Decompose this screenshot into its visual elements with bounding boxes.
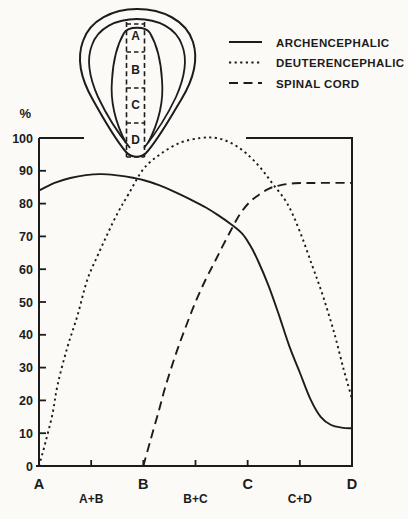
y-tick-label: 60 bbox=[19, 263, 33, 277]
y-tick-label: 90 bbox=[19, 164, 33, 178]
chart-canvas: % 1009080706050403020100ABCDA+BB+CC+DARC… bbox=[0, 0, 408, 519]
x-axis-sublabel-c-d: C+D bbox=[288, 492, 313, 506]
x-axis-label-a: A bbox=[34, 476, 45, 492]
y-tick-label: 80 bbox=[19, 197, 33, 211]
x-axis-label-c: C bbox=[242, 476, 253, 492]
inset-section-label-b: B bbox=[131, 63, 140, 77]
inset-section-label-a: A bbox=[131, 29, 140, 43]
x-axis-sublabel-b-c: B+C bbox=[183, 492, 208, 506]
x-axis-label-d: D bbox=[347, 476, 357, 492]
legend-label-spinal-cord: SPINAL CORD bbox=[276, 78, 359, 90]
inset-neural-plate: ABCD bbox=[80, 9, 195, 157]
y-tick-label: 20 bbox=[19, 394, 33, 408]
legend-label-deuterencephalic: DEUTERENCEPHALIC bbox=[276, 57, 404, 69]
figure-page: % 1009080706050403020100ABCDA+BB+CC+DARC… bbox=[0, 0, 408, 519]
curve-archencephalic bbox=[39, 174, 352, 428]
curve-spinal-cord bbox=[143, 183, 352, 466]
y-tick-label: 100 bbox=[12, 132, 33, 146]
y-tick-label: 0 bbox=[26, 460, 33, 474]
inset-section-label-c: C bbox=[131, 98, 140, 112]
x-axis-sublabel-a-b: A+B bbox=[79, 492, 104, 506]
y-tick-label: 30 bbox=[19, 361, 33, 375]
inset-section-label-d: D bbox=[131, 133, 140, 147]
x-axis-label-b: B bbox=[138, 476, 148, 492]
inset-outline-inner bbox=[112, 28, 163, 143]
y-tick-label: 40 bbox=[19, 328, 33, 342]
y-axis-unit-label: % bbox=[19, 106, 31, 121]
legend-label-archencephalic: ARCHENCEPHALIC bbox=[276, 37, 390, 49]
y-tick-label: 70 bbox=[19, 230, 33, 244]
y-tick-label: 10 bbox=[19, 427, 33, 441]
curve-deuterencephalic bbox=[39, 137, 352, 466]
y-tick-label: 50 bbox=[19, 296, 33, 310]
